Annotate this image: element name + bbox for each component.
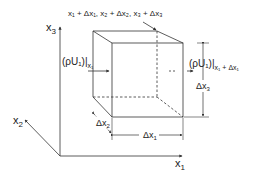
- flux-in-label: (ρU₁)|x₁: [62, 56, 94, 69]
- cube-front-face: [112, 43, 183, 117]
- cube-bottom-left-edge: [93, 97, 112, 117]
- flux-out-label: (ρU₁)|x₁ + Δx₁: [189, 58, 240, 71]
- corner-pointer-arrow: [143, 22, 156, 30]
- hidden-edges: [93, 31, 183, 117]
- cube-top-edges: [93, 31, 183, 97]
- cube-top-left-edge: [93, 31, 112, 43]
- control-volume-cube: [93, 31, 183, 117]
- x2-axis-label: x2: [13, 114, 24, 129]
- corner-coordinate-label: x₁ + Δx₁, x₂ + Δx₂, x₃ + Δx₃: [68, 9, 162, 18]
- x2-axis: [25, 120, 60, 156]
- control-volume-diagram: x3 x1 x2 x₁ + Δx₁, x₂ + Δx₂, x₃ + Δx₃ (ρ…: [0, 0, 253, 176]
- x1-axis-label: x1: [175, 157, 186, 172]
- x3-axis-label: x3: [46, 21, 57, 36]
